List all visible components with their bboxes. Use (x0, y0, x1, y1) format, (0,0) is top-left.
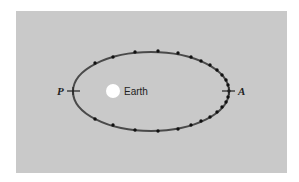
earth-icon (106, 84, 120, 98)
position-marker-dot (111, 123, 114, 126)
position-marker-dot (93, 117, 96, 120)
position-marker-dot (224, 78, 227, 81)
position-marker-dot (199, 119, 202, 122)
position-marker-dot (226, 83, 229, 86)
position-marker-dot (220, 105, 223, 108)
position-marker-dot (189, 123, 192, 126)
position-marker-dot (208, 115, 211, 118)
position-marker-dot (226, 95, 229, 98)
position-marker-dot (176, 127, 179, 130)
perigee-label: P (57, 85, 64, 97)
position-marker-dot (156, 129, 159, 132)
position-marker-dot (176, 51, 179, 54)
position-marker-dot (133, 50, 136, 53)
position-marker-dot (111, 55, 114, 58)
position-marker-dot (208, 63, 211, 66)
position-marker-dot (224, 100, 227, 103)
earth-label: Earth (124, 86, 148, 97)
apogee-label: A (237, 85, 245, 97)
position-marker-dot (199, 59, 202, 62)
position-marker-dot (156, 49, 159, 52)
orbit-diagram: Earth P A (0, 0, 299, 182)
position-marker-dot (215, 68, 218, 71)
position-marker-dot (93, 61, 96, 64)
position-marker-dot (220, 73, 223, 76)
position-marker-dot (133, 128, 136, 131)
position-marker-dot (189, 55, 192, 58)
position-marker-dot (215, 110, 218, 113)
